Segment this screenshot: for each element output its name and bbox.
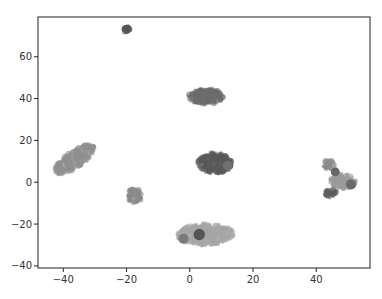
x-axis: −40−2002040 bbox=[53, 268, 323, 285]
scatter-points bbox=[53, 24, 358, 247]
y-tick-label: −20 bbox=[11, 219, 32, 230]
cluster-top-small bbox=[121, 24, 132, 34]
accent-point bbox=[178, 234, 188, 244]
x-tick-label: 40 bbox=[310, 274, 323, 285]
y-tick-label: 40 bbox=[19, 93, 32, 104]
accent-point bbox=[194, 229, 205, 240]
y-tick-label: −40 bbox=[11, 260, 32, 271]
y-tick-label: 60 bbox=[19, 51, 32, 62]
y-axis: −40−200204060 bbox=[11, 51, 38, 271]
cluster-left-small bbox=[126, 187, 144, 205]
x-tick-label: −40 bbox=[53, 274, 74, 285]
y-tick-label: 0 bbox=[26, 177, 32, 188]
x-tick-label: −20 bbox=[116, 274, 137, 285]
accent-point bbox=[331, 167, 340, 176]
cluster-upper-center bbox=[186, 87, 225, 107]
accent-point bbox=[346, 179, 356, 189]
scatter-chart: −40−2002040 −40−200204060 bbox=[0, 0, 382, 299]
cluster-left-elongated bbox=[53, 142, 97, 176]
accent-point bbox=[223, 161, 232, 170]
x-tick-label: 0 bbox=[187, 274, 193, 285]
y-tick-label: 20 bbox=[19, 135, 32, 146]
x-tick-label: 20 bbox=[247, 274, 260, 285]
